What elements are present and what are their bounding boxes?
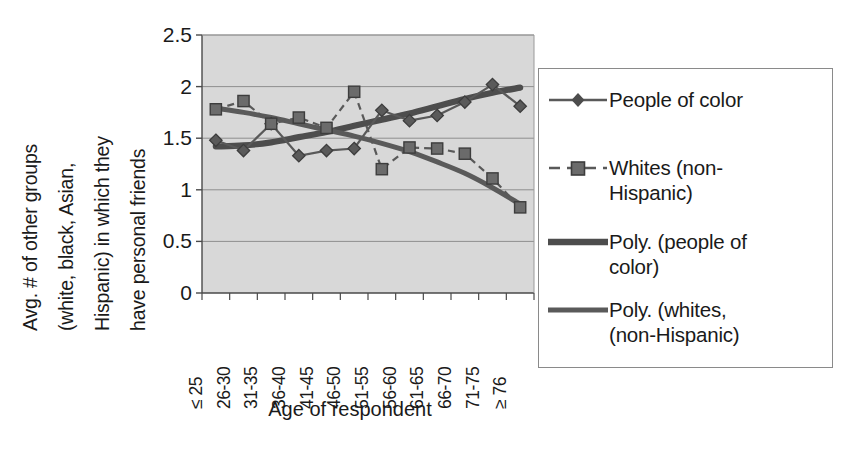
y-tick-label: 2: [180, 75, 192, 98]
y-axis-title-line-3: Hispanic) in which they: [91, 136, 114, 331]
legend-item-whites-non-hispanic[interactable]: Whites (non- Hispanic): [547, 155, 723, 205]
y-axis-title-line-2: (white, black, Asian,: [55, 163, 78, 331]
chart-figure: Avg. # of other groups (white, black, As…: [0, 0, 851, 453]
y-tick-labels: 00.511.522.5: [163, 23, 192, 304]
data-point-square: [266, 118, 277, 129]
y-tick-label: 1: [180, 178, 192, 201]
y-tick-marks: [196, 35, 202, 293]
legend-label: Poly. (people of color): [609, 229, 747, 279]
y-tick-label: 1.5: [163, 126, 192, 149]
legend-label: People of color: [609, 87, 743, 112]
x-tick-labels: ≤ 2526-3031-3536-4041-4546-5051-5556-606…: [160, 300, 540, 395]
data-point-square: [376, 164, 387, 175]
y-tick-label: 2.5: [163, 23, 192, 46]
legend-item-people-of-color[interactable]: People of color: [547, 87, 743, 113]
y-axis-title-line-4: have personal friends: [127, 149, 150, 331]
line-thick-solid-key: [547, 229, 609, 255]
data-point-square: [238, 95, 249, 106]
data-point-square: [432, 143, 443, 154]
y-tick-label: 0.5: [163, 229, 192, 252]
legend-item-poly-people-of-color[interactable]: Poly. (people of color): [547, 229, 747, 279]
data-point-square: [293, 112, 304, 123]
line-square-dashed-key: [547, 155, 609, 181]
line-thick-solid-key-2: [547, 297, 609, 323]
data-point-square: [487, 173, 498, 184]
plot-background: [202, 35, 534, 293]
data-point-square: [404, 142, 415, 153]
line-diamond-solid-key: [547, 87, 609, 113]
x-tick-marks: [202, 293, 534, 300]
y-axis-title-line-1: Avg. # of other groups: [19, 144, 42, 331]
data-point-square: [515, 202, 526, 213]
x-axis-title: Age of respondent: [160, 398, 540, 421]
data-point-square: [210, 104, 221, 115]
data-point-square: [321, 122, 332, 133]
data-point-square: [349, 86, 360, 97]
legend-item-poly-whites-non-hispanic[interactable]: Poly. (whites, (non-Hispanic): [547, 297, 740, 347]
plot-area: 00.511.522.5: [160, 18, 540, 308]
chart-canvas: 00.511.522.5: [160, 18, 540, 308]
legend-label: Whites (non- Hispanic): [609, 155, 723, 205]
data-point-square: [459, 148, 470, 159]
legend-label: Poly. (whites, (non-Hispanic): [609, 297, 740, 347]
y-axis-title: Avg. # of other groups (white, black, As…: [18, 8, 168, 308]
chart-legend: People of color Whites (non- Hispanic) P…: [538, 68, 833, 368]
